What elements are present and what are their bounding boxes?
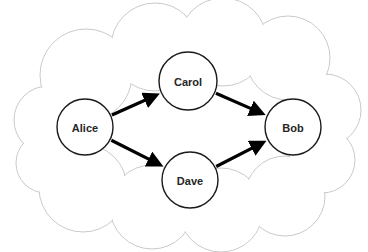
node-label-dave: Dave (177, 175, 203, 187)
node-bob[interactable]: Bob (265, 99, 321, 155)
node-label-alice: Alice (72, 122, 98, 134)
network-cloud-diagram: AliceCarolDaveBob (0, 0, 368, 252)
node-label-carol: Carol (174, 76, 202, 88)
node-dave[interactable]: Dave (162, 152, 218, 208)
edge-carol-bob (216, 93, 262, 113)
node-alice[interactable]: Alice (57, 99, 113, 155)
node-label-bob: Bob (282, 122, 304, 134)
edge-alice-dave (111, 140, 159, 164)
node-carol[interactable]: Carol (159, 52, 217, 110)
edge-dave-bob (216, 143, 263, 167)
diagram-canvas: AliceCarolDaveBob (0, 0, 368, 252)
